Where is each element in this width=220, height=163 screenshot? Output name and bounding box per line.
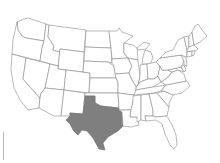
state-az[interactable] [39,88,64,116]
state-nm[interactable] [61,90,85,116]
state-co[interactable] [64,70,90,93]
state-nd[interactable] [85,31,111,48]
state-mi[interactable] [137,42,153,64]
us-map [0,0,220,163]
state-ks[interactable] [89,78,118,93]
state-ri[interactable] [192,51,195,56]
state-wy[interactable] [58,49,84,72]
state-fl[interactable] [145,116,177,149]
state-mt[interactable] [48,25,86,52]
scale-bar [3,132,4,160]
state-me[interactable] [192,24,207,45]
state-ct[interactable] [187,51,192,57]
state-sd[interactable] [84,47,112,63]
state-ny[interactable] [160,37,187,58]
